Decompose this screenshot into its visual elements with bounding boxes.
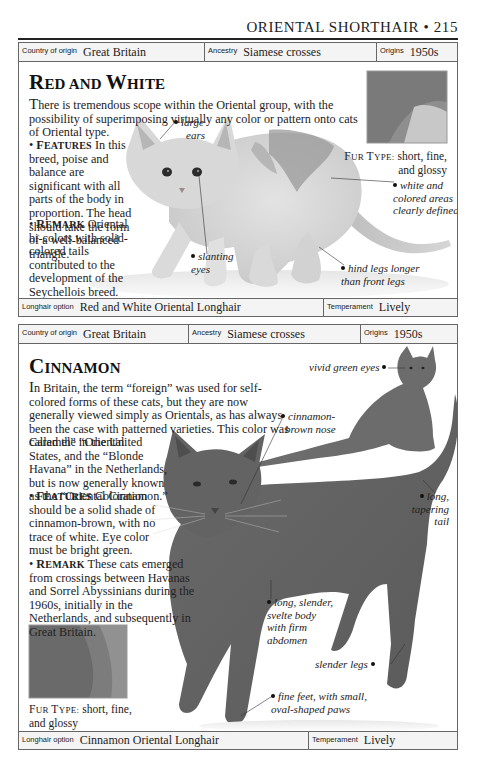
temperament-value: Lively <box>379 301 410 314</box>
fur-type-caption: FUR TYPE: short, fine, and glossy <box>337 150 447 177</box>
longhair-option-cell: Longhair option Cinnamon Oriental Longha… <box>19 732 309 749</box>
heading-smallcaps: HITE <box>127 76 165 92</box>
origin-info-bar: Country of origin Great Britain Ancestry… <box>18 324 458 344</box>
country-of-origin-cell: Country of origin Great Britain <box>19 325 189 343</box>
annotation-white-colored-areas: white and colored areas clearly defined <box>393 179 458 217</box>
bullet: • <box>29 138 33 152</box>
temperament-label: Temperament <box>327 302 373 311</box>
annotation-fine-feet: fine feet, with small, oval-shaped paws <box>271 690 367 715</box>
temperament-label: Temperament <box>312 735 358 744</box>
country-of-origin-cell: Country of origin Great Britain <box>19 43 205 61</box>
annotation-slender-legs: slender legs <box>315 658 375 671</box>
temperament-cell: Temperament Lively <box>324 299 457 316</box>
ancestry-cell: Ancestry Siamese crosses <box>205 43 377 61</box>
annotation-large-ears: large ears <box>174 116 205 141</box>
longhair-info-bar: Longhair option Cinnamon Oriental Longha… <box>18 731 458 750</box>
fur-type-value: short, fine, <box>397 150 447 162</box>
ancestry-value: Siamese crosses <box>243 46 321 59</box>
annotation-long-tapering-tail: long, tapering tail <box>412 490 449 528</box>
bullet: • <box>29 489 33 503</box>
remark-paragraph: • REMARK Oriental bi-colors with solid-c… <box>29 218 141 298</box>
longhair-option-label: Longhair option <box>22 302 74 311</box>
annotation-vivid-green-eyes: vivid green eyes <box>309 361 386 374</box>
bullet-dot <box>267 600 271 604</box>
annotation-svelte-body: long, slender, svelte body with firm abd… <box>267 596 333 646</box>
longhair-option-cell: Longhair option Red and White Oriental L… <box>19 299 324 316</box>
bullet-dot <box>281 414 285 418</box>
section-heading-cinnamon: CINNAMON <box>29 354 121 379</box>
origins-label: Origins <box>364 328 388 337</box>
features-label: FEATURES <box>36 489 92 503</box>
country-of-origin-label: Country of origin <box>22 328 77 337</box>
longhair-option-value: Red and White Oriental Longhair <box>80 301 241 314</box>
bullet-dot <box>191 254 195 258</box>
bullet-dot <box>420 494 424 498</box>
cinnamon-panel: CINNAMON In Britain, the term “foreign” … <box>18 344 458 733</box>
features-label: FEATURES <box>36 138 92 152</box>
ancestry-label: Ancestry <box>208 46 237 55</box>
ancestry-cell: Ancestry Siamese crosses <box>189 325 361 343</box>
country-of-origin-value: Great Britain <box>83 328 146 341</box>
annotation-cinnamon-brown-nose: cinnamon- brown nose <box>281 410 336 435</box>
origins-cell: Origins 1950s <box>361 325 457 343</box>
bullet-dot <box>382 365 386 369</box>
features-paragraph: • FEATURES Coloration should be a solid … <box>29 490 165 558</box>
red-and-white-panel: RED AND WHITE There is tremendous scope … <box>18 62 458 298</box>
ancestry-label: Ancestry <box>192 328 221 337</box>
temperament-value: Lively <box>364 734 395 747</box>
fur-type-label: FUR TYPE: <box>29 705 79 715</box>
heading-smallcaps: ED AND <box>44 76 105 92</box>
bullet: • <box>29 557 33 571</box>
running-head: ORIENTAL SHORTHAIR • 215 <box>18 0 458 40</box>
bullet: • <box>29 217 33 231</box>
origin-info-bar: Country of origin Great Britain Ancestry… <box>18 42 458 62</box>
bullet-dot <box>271 694 275 698</box>
ancestry-value: Siamese crosses <box>227 328 305 341</box>
longhair-option-label: Longhair option <box>22 735 74 744</box>
origins-value: 1950s <box>394 328 423 341</box>
origins-label: Origins <box>380 46 404 55</box>
dropcap: T <box>29 96 38 112</box>
heading-smallcaps: INNAMON <box>44 360 120 376</box>
annotation-slanting-eyes: slanting eyes <box>191 250 233 275</box>
bullet-dot <box>174 120 178 124</box>
remark-paragraph: • REMARK These cats emerged from crossin… <box>29 558 195 640</box>
running-head-title: ORIENTAL SHORTHAIR • 215 <box>246 19 458 36</box>
bullet-dot <box>341 266 345 270</box>
fur-type-value: and glossy <box>398 164 447 176</box>
longhair-option-value: Cinnamon Oriental Longhair <box>80 734 219 747</box>
heading-cap: W <box>106 70 127 94</box>
annotation-hind-legs: hind legs longer than front legs <box>341 262 420 287</box>
origins-cell: Origins 1950s <box>377 43 457 61</box>
fur-type-label: FUR TYPE: <box>344 152 394 162</box>
bullet-dot <box>371 662 375 666</box>
remark-label: REMARK <box>36 217 84 231</box>
section-heading-red-and-white: RED AND WHITE <box>29 70 165 95</box>
heading-cap: R <box>29 70 44 94</box>
fur-type-value: short, fine, <box>82 703 132 715</box>
bullet-dot <box>393 183 397 187</box>
remark-label: REMARK <box>36 557 84 571</box>
fur-type-caption: FUR TYPE: short, fine, and glossy <box>29 703 139 730</box>
country-of-origin-label: Country of origin <box>22 46 77 55</box>
fur-type-value: and glossy <box>29 717 78 729</box>
longhair-info-bar: Longhair option Red and White Oriental L… <box>18 298 458 317</box>
origins-value: 1950s <box>410 46 439 59</box>
heading-cap: C <box>29 354 44 378</box>
country-of-origin-value: Great Britain <box>83 46 146 59</box>
temperament-cell: Temperament Lively <box>309 732 457 749</box>
